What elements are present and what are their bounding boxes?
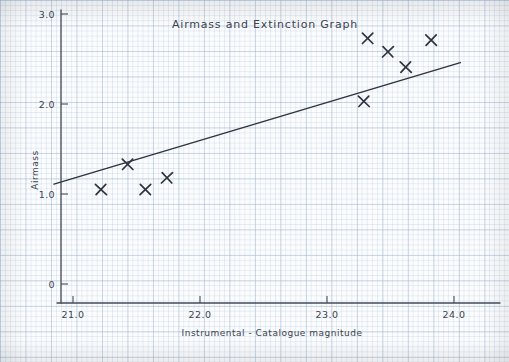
y-tick-label-3: 3.0 <box>39 9 55 20</box>
data-point-marker <box>358 96 369 106</box>
data-point-marker <box>383 47 394 57</box>
x-tick-label-21: 21.0 <box>62 309 85 320</box>
x-axis-title: Instrumental - Catalogue magnitude <box>182 328 363 338</box>
data-point-marker <box>95 184 106 194</box>
x-tick-label-24: 24.0 <box>443 309 466 320</box>
trend-line <box>54 63 460 185</box>
x-axis-ticks <box>73 296 454 303</box>
data-point-marker <box>426 35 437 45</box>
x-tick-label-22: 22.0 <box>189 309 212 320</box>
y-tick-label-1: 1.0 <box>39 189 55 200</box>
y-tick-labels: 3.0 2.0 1.0 0 <box>39 9 55 290</box>
y-axis-title: Airmass <box>30 150 40 189</box>
data-point-marker <box>140 184 151 194</box>
y-tick-label-2: 2.0 <box>39 99 55 110</box>
data-points <box>95 33 436 195</box>
x-tick-label-23: 23.0 <box>316 309 339 320</box>
trend-line-segment <box>54 63 460 185</box>
y-axis-ticks <box>61 14 68 284</box>
chart-title: Airmass and Extinction Graph <box>172 18 358 31</box>
x-tick-labels: 21.0 22.0 23.0 24.0 <box>62 309 466 320</box>
airmass-extinction-chart: 3.0 2.0 1.0 0 21.0 22.0 23.0 24.0 Airmas… <box>0 0 509 362</box>
data-point-marker <box>400 62 411 72</box>
data-point-marker <box>161 173 172 183</box>
data-point-marker <box>122 159 133 169</box>
graph-page: 3.0 2.0 1.0 0 21.0 22.0 23.0 24.0 Airmas… <box>0 0 509 362</box>
axis-lines <box>57 10 500 303</box>
data-point-marker <box>362 33 372 43</box>
y-tick-label-0: 0 <box>49 279 55 290</box>
